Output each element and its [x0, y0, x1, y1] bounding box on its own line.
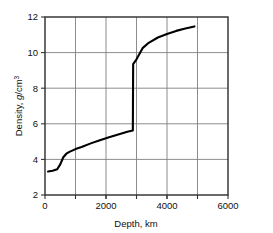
x-axis-tick-label: 2000 [95, 200, 116, 211]
x-axis-tick-label: 4000 [156, 200, 177, 211]
x-axis-tick-labels: 0200040006000 [42, 200, 238, 211]
y-axis-tick-label: 4 [33, 154, 38, 165]
y-axis-tick-label: 2 [33, 189, 38, 200]
y-axis-tick-label: 12 [27, 11, 38, 22]
y-axis-title: Density, g/cm3 [13, 75, 25, 136]
x-axis-tick-label: 6000 [217, 200, 238, 211]
y-axis-tick-label: 8 [33, 83, 38, 94]
chart-figure: 0200040006000 24681012 Depth, km Density… [0, 0, 273, 233]
density-depth-line-chart: 0200040006000 24681012 Depth, km Density… [0, 0, 273, 233]
y-axis-tick-label: 6 [33, 118, 38, 129]
y-axis-tick-labels: 24681012 [27, 11, 38, 200]
y-axis-tick-label: 10 [27, 47, 38, 58]
x-axis-title: Depth, km [114, 218, 157, 229]
x-axis-tick-label: 0 [42, 200, 47, 211]
